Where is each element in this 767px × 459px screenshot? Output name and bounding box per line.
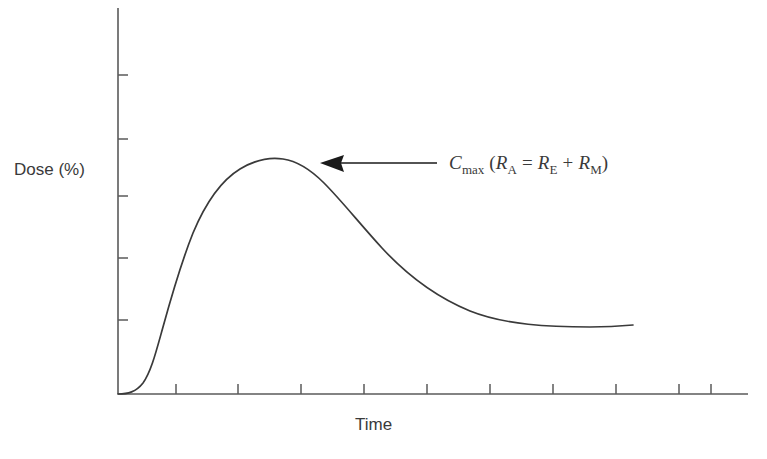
cmax-arrow-head: [320, 155, 344, 172]
y-axis-ticks: [118, 75, 128, 320]
cmax-annotation-label: Cmax (RA = RE + RM): [449, 152, 608, 178]
dose-curve-line: [118, 158, 633, 394]
y-axis-label: Dose (%): [14, 160, 85, 180]
cmax-arrow: [320, 155, 437, 172]
x-axis-label: Time: [355, 415, 392, 435]
x-axis-ticks: [176, 384, 711, 394]
pharmacokinetic-dose-time-chart: Dose (%) Time Cmax (RA = RE + RM): [0, 0, 767, 459]
chart-plot-area: [0, 0, 767, 459]
